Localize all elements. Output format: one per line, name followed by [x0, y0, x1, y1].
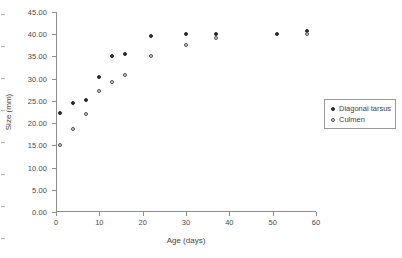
x-tick: 60 [316, 212, 317, 216]
filled-circle-icon [328, 104, 337, 113]
y-tick-label: 30.00 [28, 74, 47, 83]
data-point [84, 98, 88, 102]
x-tick-label: 10 [95, 218, 103, 227]
y-tick: 45.00 [52, 12, 56, 13]
x-tick: 40 [229, 212, 230, 216]
data-point [214, 36, 218, 40]
legend-item-culmen: Culmen [328, 114, 391, 125]
data-point [71, 101, 75, 105]
y-tick-label: 10.00 [28, 163, 47, 172]
y-tick: 40.00 [52, 34, 56, 35]
x-tick: 30 [186, 212, 187, 216]
x-axis-title: Age (days) [167, 236, 206, 245]
data-point [305, 32, 309, 36]
data-point [184, 32, 188, 36]
data-point [123, 73, 127, 77]
data-point [123, 52, 127, 56]
y-tick: 10.00 [52, 168, 56, 169]
y-tick-label: 0.00 [32, 208, 47, 217]
data-point [110, 80, 114, 84]
x-tick: 20 [143, 212, 144, 216]
data-point [58, 143, 62, 147]
x-tick: 0 [56, 212, 57, 216]
y-tick: 20.00 [52, 123, 56, 124]
data-point [97, 89, 101, 93]
data-point [149, 54, 153, 58]
y-tick: 5.00 [52, 190, 56, 191]
data-point [275, 32, 279, 36]
y-tick: 35.00 [52, 56, 56, 57]
y-tick-label: 15.00 [28, 141, 47, 150]
x-tick: 50 [273, 212, 274, 216]
y-axis-title: Size (mm) [4, 94, 13, 130]
y-tick: 15.00 [52, 145, 56, 146]
scatter-chart-figure: Size (mm) Age (days) 0.005.0010.0015.002… [0, 0, 402, 258]
data-point [184, 43, 188, 47]
legend-item-diagonal-tarsus: Diagonal tarsus [328, 103, 391, 114]
y-tick-label: 25.00 [28, 96, 47, 105]
data-point [110, 54, 114, 58]
y-tick-label: 35.00 [28, 52, 47, 61]
legend-item-label: Diagonal tarsus [339, 103, 391, 114]
y-tick: 25.00 [52, 101, 56, 102]
y-tick-label: 20.00 [28, 119, 47, 128]
plot-area: 0.005.0010.0015.0020.0025.0030.0035.0040… [56, 12, 316, 212]
data-point [71, 127, 75, 131]
data-point [97, 75, 101, 79]
data-point [58, 111, 62, 115]
x-tick: 10 [99, 212, 100, 216]
x-tick-label: 20 [138, 218, 146, 227]
data-point [149, 34, 153, 38]
y-tick: 30.00 [52, 79, 56, 80]
y-axis-line [56, 12, 57, 212]
open-circle-icon [328, 115, 337, 124]
y-tick-label: 40.00 [28, 30, 47, 39]
data-point [84, 112, 88, 116]
x-tick-label: 60 [312, 218, 320, 227]
x-tick-label: 0 [54, 218, 58, 227]
x-tick-label: 50 [268, 218, 276, 227]
x-tick-label: 30 [182, 218, 190, 227]
y-tick-label: 5.00 [32, 185, 47, 194]
chart-legend: Diagonal tarsusCulmen [324, 99, 396, 129]
y-tick-label: 45.00 [28, 8, 47, 17]
legend-item-label: Culmen [339, 114, 365, 125]
x-tick-label: 40 [225, 218, 233, 227]
